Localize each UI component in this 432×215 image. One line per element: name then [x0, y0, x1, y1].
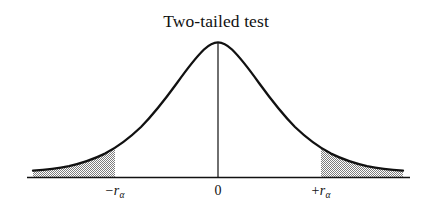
- axis-label-positive-critical: +rα: [284, 183, 358, 200]
- positive-sign: +: [312, 183, 320, 198]
- axis-label-center: 0: [182, 183, 254, 199]
- two-tailed-test-figure: Two-tailed test −rα 0: [0, 0, 432, 215]
- negative-critical-subscript: α: [119, 190, 124, 200]
- negative-sign: −: [106, 183, 114, 198]
- axis-label-negative-critical: −rα: [78, 183, 152, 200]
- right-rejection-region: [321, 147, 403, 178]
- left-rejection-region: [33, 147, 115, 178]
- positive-critical-subscript: α: [325, 190, 330, 200]
